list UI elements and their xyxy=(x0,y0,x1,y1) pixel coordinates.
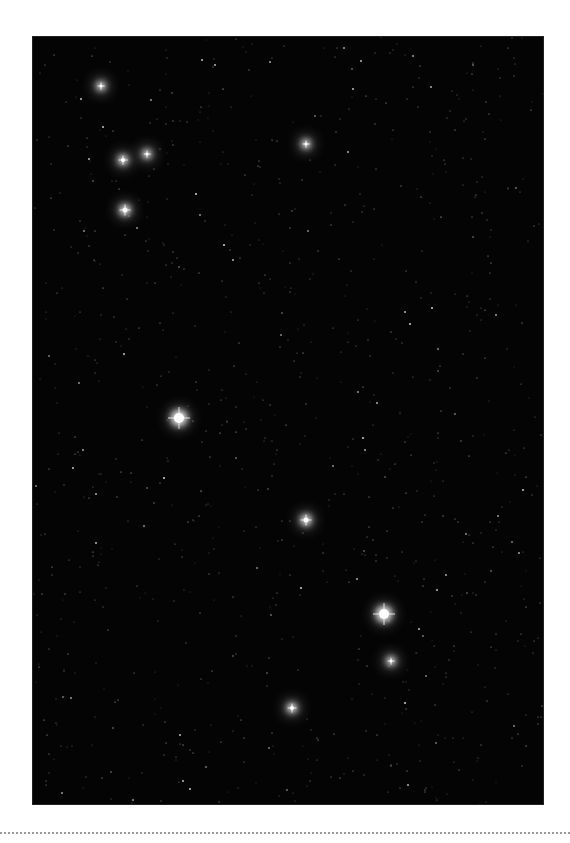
faint-star xyxy=(269,405,270,406)
faint-star xyxy=(235,39,236,40)
faint-star xyxy=(437,348,439,350)
faint-star xyxy=(122,274,123,275)
faint-star xyxy=(520,633,521,634)
faint-star xyxy=(435,469,436,470)
faint-star xyxy=(199,516,200,517)
faint-star xyxy=(83,496,84,497)
faint-star xyxy=(434,645,435,646)
faint-star xyxy=(431,293,432,294)
faint-star xyxy=(167,420,168,421)
faint-star xyxy=(341,382,342,383)
faint-star xyxy=(500,78,501,79)
faint-star xyxy=(193,520,194,521)
faint-star xyxy=(243,737,244,738)
faint-star xyxy=(514,430,515,431)
faint-star xyxy=(429,132,430,133)
faint-star xyxy=(177,684,178,685)
faint-star xyxy=(304,435,305,436)
faint-star xyxy=(317,759,318,760)
faint-star xyxy=(338,258,339,259)
faint-star xyxy=(95,493,97,495)
faint-star xyxy=(526,607,527,608)
faint-star xyxy=(444,738,445,739)
faint-star xyxy=(489,401,490,402)
faint-star xyxy=(292,793,293,794)
faint-star xyxy=(56,699,57,700)
faint-star xyxy=(54,491,55,492)
faint-star xyxy=(344,494,345,495)
diffraction-spike xyxy=(101,83,102,90)
faint-star xyxy=(260,288,261,289)
faint-star xyxy=(348,757,349,758)
faint-star xyxy=(103,606,104,607)
faint-star xyxy=(178,266,180,268)
faint-star xyxy=(310,160,311,161)
faint-star xyxy=(269,61,271,63)
faint-star xyxy=(121,471,122,472)
faint-star xyxy=(303,324,304,325)
faint-star xyxy=(370,402,371,403)
faint-star xyxy=(269,657,270,658)
faint-star xyxy=(368,527,369,528)
faint-star xyxy=(190,749,191,750)
faint-star xyxy=(416,561,417,562)
faint-star xyxy=(111,798,112,799)
faint-star xyxy=(513,725,515,727)
faint-star xyxy=(99,130,100,131)
faint-star xyxy=(477,378,478,379)
faint-star xyxy=(365,96,366,97)
faint-star xyxy=(316,378,317,379)
faint-star xyxy=(334,165,335,166)
faint-star xyxy=(225,398,226,399)
faint-star xyxy=(452,738,453,739)
faint-star xyxy=(446,171,447,172)
faint-star xyxy=(146,487,148,489)
faint-star xyxy=(116,459,117,460)
faint-star xyxy=(170,276,171,277)
faint-star xyxy=(485,801,486,802)
faint-star xyxy=(102,778,103,779)
faint-star xyxy=(67,146,68,147)
faint-star xyxy=(352,466,353,467)
faint-star xyxy=(158,558,159,559)
faint-star xyxy=(270,614,272,616)
faint-star xyxy=(489,272,490,273)
faint-star xyxy=(179,734,181,736)
faint-star xyxy=(390,765,391,766)
faint-star xyxy=(330,776,331,777)
faint-star xyxy=(260,547,261,548)
faint-star xyxy=(515,187,517,189)
faint-star xyxy=(352,96,353,97)
faint-star xyxy=(238,343,239,344)
faint-star xyxy=(140,597,141,598)
faint-star xyxy=(269,607,270,608)
faint-star xyxy=(353,770,354,771)
faint-star xyxy=(166,49,167,50)
faint-star xyxy=(271,440,272,441)
faint-star xyxy=(384,476,386,478)
faint-star xyxy=(278,179,279,180)
faint-star xyxy=(389,52,390,53)
faint-star xyxy=(188,522,189,523)
faint-star xyxy=(270,279,271,280)
faint-star xyxy=(225,332,226,333)
diffraction-spike xyxy=(391,658,392,665)
faint-star xyxy=(406,682,407,683)
faint-star xyxy=(275,605,276,606)
faint-star xyxy=(214,64,216,66)
faint-star xyxy=(279,795,280,796)
faint-star xyxy=(404,702,406,704)
faint-star xyxy=(111,180,112,181)
faint-star xyxy=(183,164,184,165)
faint-star xyxy=(138,327,139,328)
faint-star xyxy=(443,684,444,685)
faint-star xyxy=(186,122,187,123)
faint-star xyxy=(243,530,244,531)
faint-star xyxy=(161,376,162,377)
faint-star xyxy=(454,518,455,519)
faint-star xyxy=(208,574,209,575)
faint-star xyxy=(478,665,479,666)
faint-star xyxy=(231,106,232,107)
faint-star xyxy=(497,472,498,473)
faint-star xyxy=(95,260,96,261)
